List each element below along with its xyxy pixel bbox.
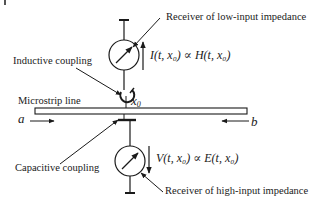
current-equation: I(t, x₀) ∝ H(t, x₀) [150,49,230,61]
port-a-label: a [18,112,25,125]
port-b-label: b [251,115,258,128]
microstrip-line-label: Microstrip line [18,96,81,107]
capacitive-coupling-label: Capacitive coupling [15,163,99,174]
inductive-coupling-label: Inductive coupling [13,56,92,67]
high-impedance-receiver [60,114,163,193]
inductive-loop [76,68,134,108]
voltage-equation: V(t, x₀) ∝ E(t, x₀) [156,152,238,164]
receiver-high-impedance-label: Receiver of high-input impedance [165,186,308,197]
position-label: x0 [131,94,141,109]
receiver-low-impedance-label: Receiver of low-input impedance [166,12,306,23]
